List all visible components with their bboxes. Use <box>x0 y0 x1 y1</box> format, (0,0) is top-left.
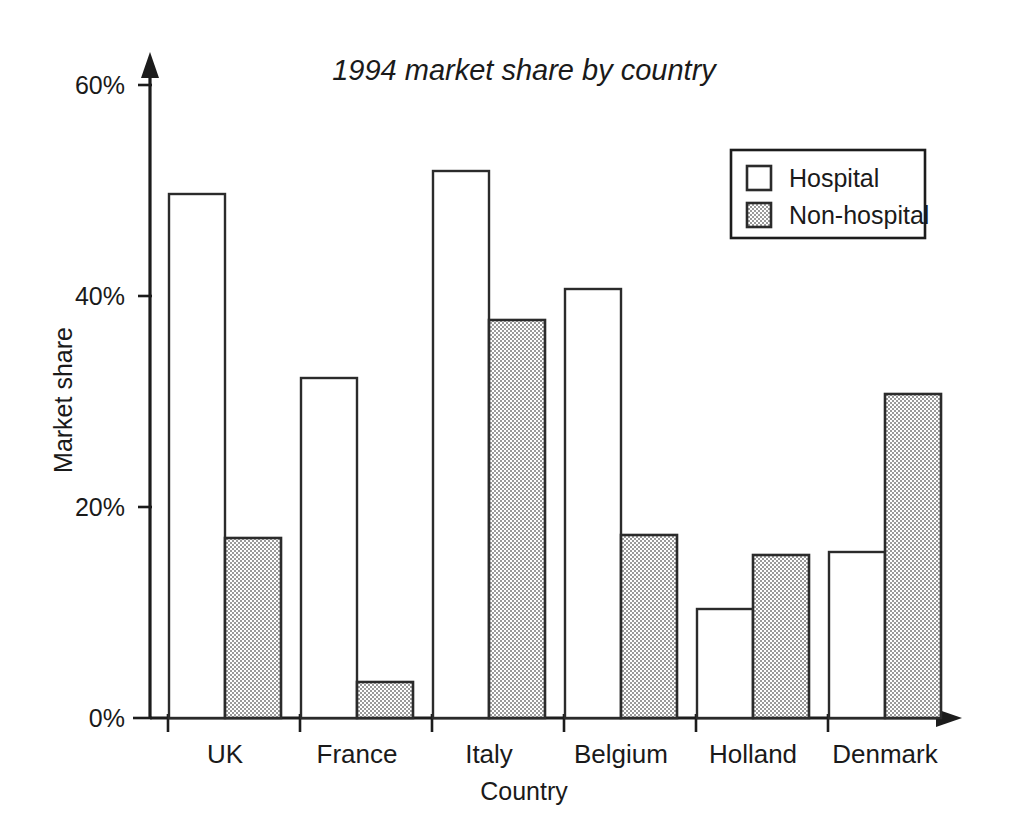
bar-france-hospital <box>301 378 357 718</box>
bar-holland-non-hospital <box>753 555 809 718</box>
y-axis-title: Market share <box>49 327 77 473</box>
legend-item-hospital: Hospital <box>747 164 879 192</box>
bar-denmark-hospital <box>829 552 885 718</box>
x-label-italy: Italy <box>465 739 513 769</box>
y-tick-label-20: 20% <box>75 493 125 521</box>
x-axis-title: Country <box>480 777 568 805</box>
y-axis-up-arrow-icon <box>141 52 159 78</box>
bar-holland-hospital <box>697 609 753 718</box>
bar-italy-non-hospital <box>489 320 545 718</box>
legend-swatch-hospital-icon <box>747 166 771 190</box>
bar-uk-hospital <box>169 194 225 718</box>
y-tick-label-40: 40% <box>75 282 125 310</box>
bar-belgium-non-hospital <box>621 535 677 718</box>
chart-canvas: 1994 market share by country 60% 40% 20%… <box>0 0 1011 829</box>
bar-italy-hospital <box>433 171 489 718</box>
legend-label-hospital: Hospital <box>789 164 879 192</box>
x-label-belgium: Belgium <box>574 739 668 769</box>
x-label-holland: Holland <box>709 739 797 769</box>
y-tick-label-0: 0% <box>89 704 125 732</box>
bar-france-non-hospital <box>357 682 413 718</box>
legend-swatch-non-hospital-icon <box>747 203 771 227</box>
bar-chart-figure: 1994 market share by country 60% 40% 20%… <box>0 0 1011 829</box>
legend: Hospital Non-hospital <box>731 150 929 238</box>
bar-denmark-non-hospital <box>885 394 941 718</box>
y-tick-label-60: 60% <box>75 71 125 99</box>
bar-belgium-hospital <box>565 289 621 718</box>
x-label-uk: UK <box>207 739 244 769</box>
chart-title: 1994 market share by country <box>332 54 717 86</box>
x-label-denmark: Denmark <box>832 739 938 769</box>
x-label-france: France <box>317 739 398 769</box>
legend-label-non-hospital: Non-hospital <box>789 201 929 229</box>
bar-uk-non-hospital <box>225 538 281 718</box>
